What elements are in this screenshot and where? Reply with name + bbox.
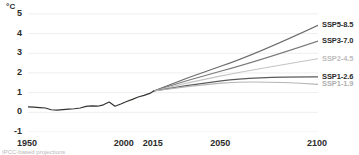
gridlines bbox=[28, 14, 318, 132]
x-axis-tick-2050: 2050 bbox=[210, 138, 230, 148]
series-line-SSP1-2.6 bbox=[154, 77, 318, 91]
x-axis-tick-2000: 2000 bbox=[114, 138, 134, 148]
footnote: IPCC-based projections bbox=[2, 149, 152, 155]
plot-area bbox=[28, 6, 318, 132]
x-axis-tick-1950: 1950 bbox=[17, 138, 37, 148]
series-line-SSP2-4.5 bbox=[154, 59, 318, 91]
legend-label-SSP3-7.0[interactable]: SSP3-7.0 bbox=[322, 36, 353, 45]
y-axis-tick-1: 1 bbox=[0, 87, 22, 97]
series-line-SSP5-8.5 bbox=[154, 25, 318, 91]
y-axis-tick-0: 0 bbox=[0, 106, 22, 116]
series-line-SSP3-7.0 bbox=[154, 41, 318, 91]
y-axis-tick-4: 4 bbox=[0, 28, 22, 38]
historical-line bbox=[28, 91, 154, 110]
y-axis-tick-3: 3 bbox=[0, 47, 22, 57]
legend-label-SSP2-4.5[interactable]: SSP2-4.5 bbox=[322, 54, 353, 63]
legend-label-SSP1-1.9[interactable]: SSP1-1.9 bbox=[322, 79, 353, 88]
legend-label-SSP5-8.5[interactable]: SSP5-8.5 bbox=[322, 20, 353, 29]
series-lines bbox=[154, 25, 318, 91]
y-axis-tick-5: 5 bbox=[0, 8, 22, 18]
plot-svg bbox=[28, 6, 318, 132]
x-axis-tick-2100: 2100 bbox=[307, 138, 327, 148]
climate-projection-chart: °C 543210-1 19502000201520502100 SSP5-8.… bbox=[0, 0, 359, 155]
x-axis-tick-2015: 2015 bbox=[143, 138, 163, 148]
y-axis-tick-neg1: -1 bbox=[0, 126, 22, 136]
y-axis-tick-2: 2 bbox=[0, 67, 22, 77]
